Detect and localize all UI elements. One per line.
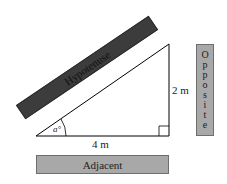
angle-arc xyxy=(61,119,66,136)
adjacent-label-box: Adjacent xyxy=(36,155,169,174)
adjacent-length-label: 4 m xyxy=(92,138,109,150)
adjacent-label: Adjacent xyxy=(83,159,123,171)
triangle-diagram: Hypotenuse O p p o s i t e Adjacent 4 m … xyxy=(0,0,227,184)
opposite-label-box: O p p o s i t e xyxy=(196,44,214,136)
opposite-letter: e xyxy=(203,120,207,130)
angle-label: a° xyxy=(53,124,61,134)
right-angle-marker xyxy=(159,126,169,136)
opposite-length-label: 2 m xyxy=(172,84,189,96)
